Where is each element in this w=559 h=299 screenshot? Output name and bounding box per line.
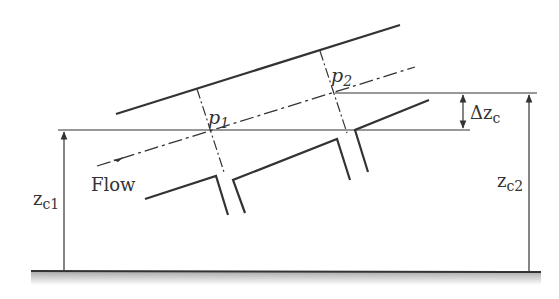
label-zc1: zc1 bbox=[33, 188, 59, 212]
ground-shading bbox=[31, 271, 541, 285]
pipe-centerline bbox=[97, 67, 415, 166]
bottom-wall-segment-2 bbox=[233, 139, 350, 213]
label-zc2: zc2 bbox=[497, 170, 523, 194]
ground-line bbox=[31, 271, 541, 272]
label-p2: p2 bbox=[331, 64, 352, 89]
label-flow: Flow bbox=[91, 174, 136, 195]
label-p1: p1 bbox=[208, 106, 229, 131]
pipe-bottom-wall bbox=[145, 100, 429, 215]
bottom-wall-segment-3 bbox=[355, 100, 429, 172]
inclined-pipe-diagram: p1 p2 Flow Δzc zc1 zc2 bbox=[0, 0, 559, 299]
ground bbox=[31, 271, 541, 285]
flow-arrow-icon bbox=[113, 157, 124, 162]
bottom-wall-segment-1 bbox=[145, 176, 228, 215]
pipe-top-wall bbox=[116, 25, 400, 114]
label-delta-zc: Δzc bbox=[470, 102, 500, 126]
